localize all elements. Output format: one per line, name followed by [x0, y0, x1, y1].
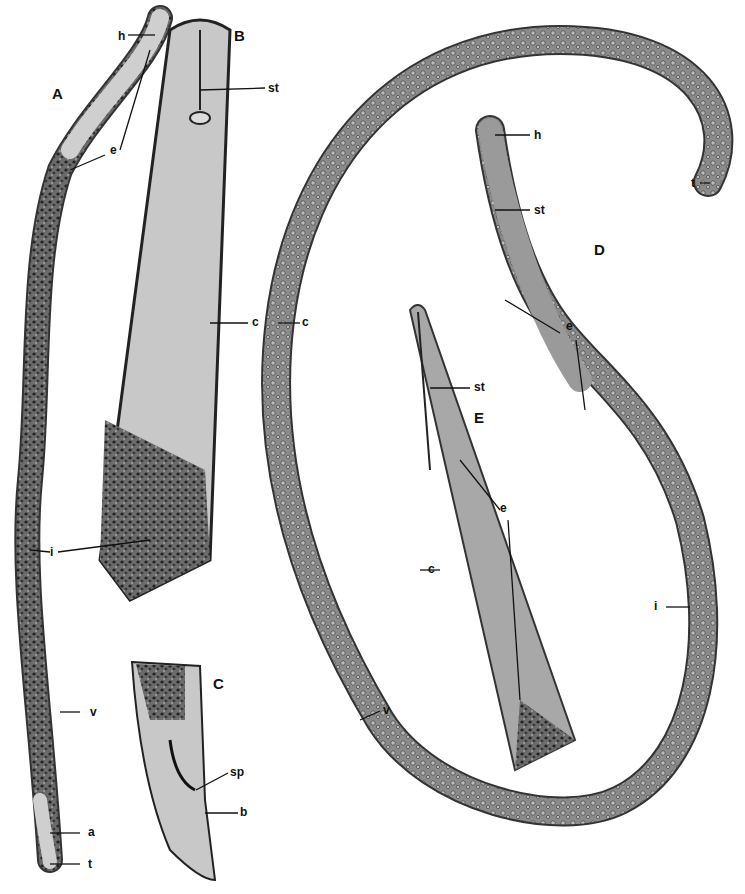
panel-label-b: B — [234, 28, 245, 43]
label-b-c: c — [252, 316, 259, 328]
label-a-e: e — [110, 144, 117, 156]
panel-label-d: D — [594, 242, 605, 257]
label-c-sp: sp — [230, 766, 244, 778]
label-a-a: a — [88, 826, 95, 838]
label-a-i: i — [50, 546, 53, 558]
label-a-h: h — [118, 30, 125, 42]
label-a-v: v — [90, 706, 97, 718]
label-c-b: b — [240, 806, 247, 818]
panel-label-a: A — [52, 86, 63, 101]
specimen-b — [100, 20, 230, 600]
panel-label-e: E — [474, 410, 484, 425]
label-d-t: t — [691, 177, 695, 189]
specimen-e — [410, 305, 575, 770]
label-b-st: st — [268, 82, 279, 94]
label-d-i: i — [654, 600, 657, 612]
label-d-e: e — [566, 320, 573, 332]
label-d-st: st — [534, 204, 545, 216]
label-d-c: c — [302, 316, 309, 328]
label-d-v: v — [383, 704, 390, 716]
label-d-h: h — [534, 129, 541, 141]
panel-label-c: C — [213, 676, 224, 691]
label-e-c: c — [428, 563, 435, 575]
label-e-st: st — [474, 381, 485, 393]
label-e-e: e — [500, 502, 507, 514]
specimen-c — [132, 662, 215, 880]
micrograph-plate — [0, 0, 745, 894]
label-a-t: t — [88, 858, 92, 870]
